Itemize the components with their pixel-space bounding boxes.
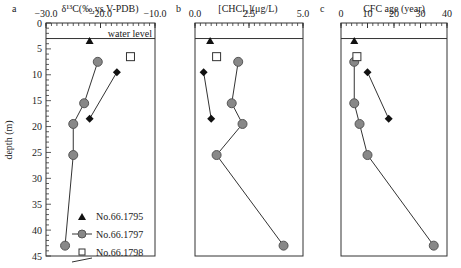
x-tick-label: 0 [339,8,344,19]
data-point-circle [93,57,102,66]
data-point-circle [238,119,247,128]
x-tick-label: 5.0 [297,8,310,19]
legend-item-1799 [72,258,92,262]
data-point-circle [61,241,70,250]
y-tick-label: 30 [32,173,42,184]
data-point-square [353,53,361,61]
depth-profile-charts: a δ¹³C(‰,vs.V-PDB) b [CHCl₃](μg/L) c CFC… [0,0,461,268]
data-point-square [126,53,134,61]
y-tick-label: 25 [32,147,42,158]
panel-a: water level−30.0−20.0−10.005101520253035… [32,8,167,262]
triangle-marker-icon [78,213,86,220]
data-point-circle [80,99,89,108]
square-marker-icon [79,249,85,255]
data-point-circle [355,119,364,128]
panel-label-b: b [176,3,181,14]
x-tick-label: 0.0 [189,8,202,19]
data-point-circle [363,151,372,160]
data-point-circle [279,241,288,250]
legend-label: No.66.1798 [96,247,143,258]
data-point-diamond [86,115,94,123]
data-point-circle [234,57,243,66]
water-level-label: water level [108,28,152,39]
data-point-diamond [207,115,215,123]
data-point-square [213,53,221,61]
panel-label-c: c [320,3,325,14]
y-tick-label: 45 [32,251,42,262]
plot-panels: water level−30.0−20.0−10.005101520253035… [32,8,452,262]
data-point-circle [69,119,78,128]
y-axis-label: depth (m) [3,120,15,159]
y-tick-label: 15 [32,95,42,106]
data-point-circle [69,151,78,160]
data-point-circle [350,99,359,108]
y-tick-label: 35 [32,199,42,210]
data-point-diamond [113,68,121,76]
y-tick-label: 10 [32,69,42,80]
x-tick-label: 2.5 [243,8,256,19]
panel-label-a: a [12,3,17,14]
x-tick-label: −10.0 [143,8,166,19]
legend: No.66.1795 No.66.1797 No.66.1798 [72,211,143,262]
y-tick-label: 5 [37,43,42,54]
data-point-diamond [200,68,208,76]
y-tick-label: 0 [37,18,42,29]
legend-label: No.66.1797 [96,229,143,240]
x-tick-label: −20.0 [89,8,112,19]
y-tick-label: 40 [32,225,42,236]
data-point-circle [227,99,236,108]
circle-marker-icon [78,230,86,238]
panel-c: 010203040 [339,8,453,256]
legend-item-1797: No.66.1797 [72,229,143,240]
x-tick-label: 40 [442,8,452,19]
legend-item-1795: No.66.1795 [78,211,143,222]
data-point-circle [429,241,438,250]
panel-b: 0.02.55.0 [189,8,310,256]
x-tick-label: 10 [363,8,373,19]
data-point-circle [212,151,221,160]
data-point-diamond [364,68,372,76]
x-tick-label: 20 [389,8,399,19]
data-point-diamond [385,115,393,123]
x-tick-label: 30 [416,8,426,19]
legend-label: No.66.1795 [96,211,143,222]
y-tick-label: 20 [32,121,42,132]
